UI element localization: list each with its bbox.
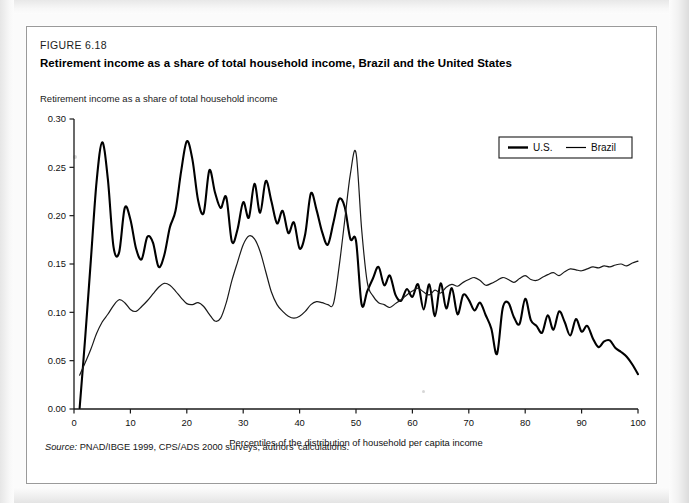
figure-container: FIGURE 6.18 Retirement income as a share…	[26, 26, 657, 484]
x-tick-label: 40	[294, 417, 304, 428]
source-note: Source: PNAD/IBGE 1999, CPS/ADS 2000 sur…	[45, 442, 349, 452]
legend-label-brazil: Brazil	[591, 142, 616, 153]
page-canvas: FIGURE 6.18 Retirement income as a share…	[0, 0, 689, 503]
page-edge-right	[669, 0, 689, 503]
x-tick-label: 80	[520, 417, 530, 428]
line-chart: 0.000.050.100.150.200.250.30010203040506…	[27, 27, 656, 483]
x-tick-label: 50	[351, 417, 361, 428]
x-tick-label: 20	[182, 417, 192, 428]
y-tick-label: 0.10	[48, 307, 66, 318]
plot-area: 0.000.050.100.150.200.250.30010203040506…	[27, 27, 656, 483]
x-tick-label: 0	[71, 417, 76, 428]
y-tick-label: 0.05	[48, 355, 66, 366]
page-edge-left	[0, 0, 14, 503]
y-tick-label: 0.25	[48, 162, 66, 173]
source-label: Source:	[45, 442, 77, 452]
x-tick-label: 100	[630, 417, 646, 428]
y-tick-label: 0.00	[48, 403, 66, 414]
chart-legend: U.S.Brazil	[499, 137, 632, 158]
y-tick-label: 0.15	[48, 258, 66, 269]
page-edge-bottom	[0, 487, 689, 503]
legend-label-us: U.S.	[533, 142, 552, 153]
source-text: PNAD/IBGE 1999, CPS/ADS 2000 surveys; au…	[80, 442, 349, 452]
y-tick-label: 0.30	[48, 113, 66, 124]
x-tick-label: 90	[576, 417, 586, 428]
y-tick-label: 0.20	[48, 210, 66, 221]
x-tick-label: 30	[238, 417, 248, 428]
x-tick-label: 70	[464, 417, 474, 428]
x-tick-label: 10	[125, 417, 135, 428]
x-tick-label: 60	[407, 417, 417, 428]
page-edge-top	[0, 0, 689, 14]
